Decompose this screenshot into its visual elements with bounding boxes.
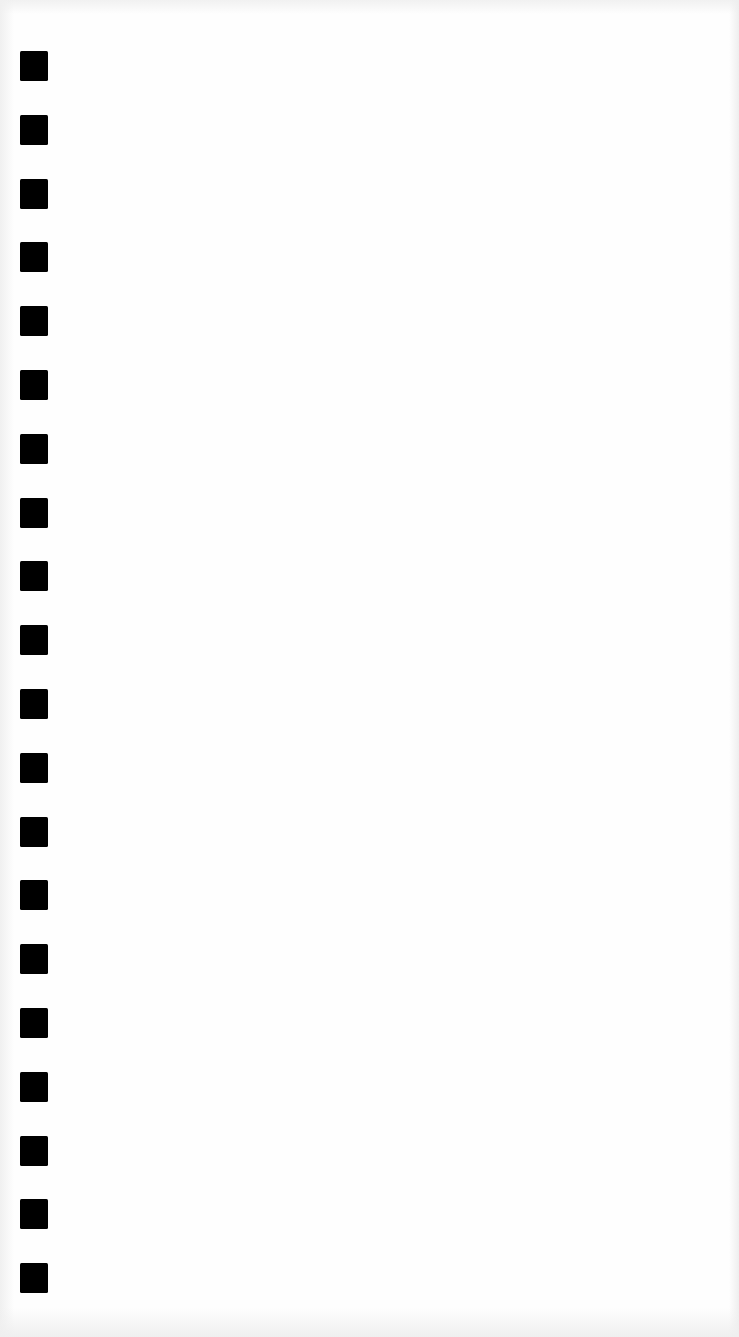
timing-mark xyxy=(20,242,48,272)
timing-mark xyxy=(20,306,48,336)
timing-mark xyxy=(20,1263,48,1293)
timing-mark xyxy=(20,689,48,719)
timing-mark xyxy=(20,625,48,655)
scan-edge-top xyxy=(0,0,739,14)
timing-mark xyxy=(20,753,48,783)
scan-edge-right xyxy=(729,0,739,1337)
scan-edge-bottom xyxy=(0,1307,739,1337)
timing-mark xyxy=(20,1136,48,1166)
timing-mark xyxy=(20,1072,48,1102)
timing-mark xyxy=(20,817,48,847)
timing-mark xyxy=(20,561,48,591)
timing-mark xyxy=(20,51,48,81)
timing-mark xyxy=(20,880,48,910)
timing-mark xyxy=(20,179,48,209)
scan-edge-left xyxy=(0,0,14,1337)
timing-mark xyxy=(20,1199,48,1229)
timing-mark xyxy=(20,115,48,145)
timing-mark xyxy=(20,370,48,400)
timing-mark xyxy=(20,944,48,974)
timing-mark xyxy=(20,498,48,528)
timing-mark xyxy=(20,434,48,464)
scanned-page xyxy=(0,0,739,1337)
timing-mark xyxy=(20,1008,48,1038)
